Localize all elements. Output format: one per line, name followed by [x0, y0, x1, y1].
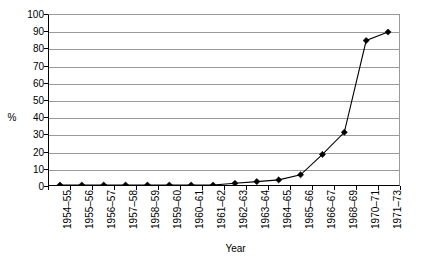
data-point-marker: [188, 182, 194, 186]
x-axis-tick-label: 1958–59: [151, 190, 161, 229]
y-axis-tick-label: 80: [18, 43, 44, 54]
x-axis-tick-label: 1964–65: [283, 190, 293, 229]
x-axis-tick-labels: 1954–551955–561956–571957–581958–591959–…: [0, 190, 421, 238]
data-point-marker: [232, 180, 238, 186]
data-point-marker: [385, 29, 391, 35]
x-axis-tick-mark: [92, 186, 93, 190]
y-axis-tick-label: 40: [18, 112, 44, 123]
x-axis-tick-label: 1954–55: [63, 190, 73, 229]
x-axis-tick-mark: [202, 186, 203, 190]
x-axis-tick-mark: [224, 186, 225, 190]
x-axis-tick-mark: [136, 186, 137, 190]
series-line-layer: [49, 15, 399, 185]
x-axis-tick-mark: [356, 186, 357, 190]
data-point-marker: [101, 182, 107, 186]
line-chart: % 0102030405060708090100 1954–551955–561…: [0, 0, 421, 266]
x-axis-tick-mark: [400, 186, 401, 190]
x-axis-tick-mark: [378, 186, 379, 190]
y-axis-tick-label: 100: [18, 9, 44, 20]
y-axis-tick-mark: [44, 152, 48, 153]
x-axis-tick-mark: [312, 186, 313, 190]
data-point-marker: [122, 182, 128, 186]
x-axis-tick-label: 1962–63: [239, 190, 249, 229]
x-axis-tick-mark: [246, 186, 247, 190]
data-point-marker: [57, 182, 63, 186]
x-axis-tick-label: 1968–69: [349, 190, 359, 229]
series-line: [60, 32, 388, 185]
y-axis-tick-label: 60: [18, 78, 44, 89]
y-axis-tick-label: 70: [18, 61, 44, 72]
x-axis-tick-mark: [70, 186, 71, 190]
y-axis-tick-mark: [44, 48, 48, 49]
x-axis-tick-label: 1966–67: [327, 190, 337, 229]
x-axis-title-text: Year: [225, 243, 245, 254]
x-axis-tick-label: 1970–71: [371, 190, 381, 229]
x-axis-tick-label: 1955–56: [85, 190, 95, 229]
data-point-marker: [363, 37, 369, 43]
y-axis-tick-mark: [44, 83, 48, 84]
x-axis-tick-label: 1965–66: [305, 190, 315, 229]
y-axis-tick-mark: [44, 134, 48, 135]
data-point-marker: [79, 182, 85, 186]
y-axis-tick-label: 20: [18, 147, 44, 158]
data-point-marker: [254, 179, 260, 185]
x-axis-tick-label: 1963–64: [261, 190, 271, 229]
x-axis-tick-label: 1956–57: [107, 190, 117, 229]
data-point-marker: [210, 182, 216, 186]
x-axis-tick-label: 1971–73: [393, 190, 403, 229]
x-axis-tick-label: 1957–58: [129, 190, 139, 229]
plot-area: [48, 14, 400, 186]
x-axis-tick-label: 1960–61: [195, 190, 205, 229]
y-axis-tick-mark: [44, 31, 48, 32]
x-axis-tick-mark: [114, 186, 115, 190]
y-axis-tick-labels: 0102030405060708090100: [18, 8, 44, 192]
y-axis-tick-mark: [44, 100, 48, 101]
data-point-marker: [276, 177, 282, 183]
data-point-marker: [144, 182, 150, 186]
y-axis-tick-mark: [44, 169, 48, 170]
x-axis-tick-mark: [334, 186, 335, 190]
x-axis-tick-mark: [290, 186, 291, 190]
x-axis-tick-mark: [268, 186, 269, 190]
x-axis-tick-label: 1961–62: [217, 190, 227, 229]
x-axis-tick-mark: [48, 186, 49, 190]
y-axis-tick-mark: [44, 66, 48, 67]
y-axis-tick-label: 30: [18, 129, 44, 140]
y-axis-tick-mark: [44, 14, 48, 15]
y-axis-tick-mark: [44, 117, 48, 118]
x-axis-tick-label: 1959–60: [173, 190, 183, 229]
y-axis-tick-label: 50: [18, 95, 44, 106]
y-axis-tick-label: 10: [18, 164, 44, 175]
x-axis-tick-mark: [158, 186, 159, 190]
data-point-marker: [166, 182, 172, 186]
x-axis-tick-mark: [180, 186, 181, 190]
y-axis-tick-label: 90: [18, 26, 44, 37]
x-axis-title: Year: [0, 243, 421, 255]
